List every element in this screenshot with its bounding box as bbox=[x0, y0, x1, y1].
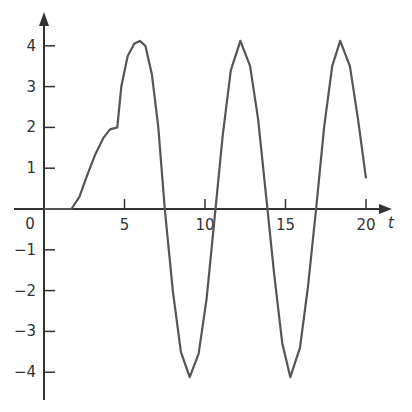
x-tick-label: 15 bbox=[276, 216, 295, 234]
y-tick-label: −3 bbox=[14, 322, 36, 340]
y-tick-label: 4 bbox=[26, 37, 36, 55]
y-tick-label: −4 bbox=[14, 363, 36, 381]
x-tick-label: 5 bbox=[120, 216, 130, 234]
y-tick-label: 3 bbox=[26, 78, 36, 96]
x-axis-arrow-icon bbox=[379, 204, 392, 214]
x-axis-label: t bbox=[388, 214, 395, 232]
chart: 51015204321−1−2−3−4 0 t bbox=[0, 0, 412, 412]
x-tick-label: 20 bbox=[356, 216, 375, 234]
y-tick-label: 1 bbox=[26, 159, 36, 177]
x-tick-label: 10 bbox=[195, 216, 214, 234]
y-tick-label: −2 bbox=[14, 282, 36, 300]
axes bbox=[14, 12, 392, 400]
y-tick-label: 2 bbox=[26, 118, 36, 136]
y-tick-label: −1 bbox=[14, 241, 36, 259]
origin-label: 0 bbox=[25, 215, 35, 233]
y-axis-arrow-icon bbox=[39, 12, 49, 26]
